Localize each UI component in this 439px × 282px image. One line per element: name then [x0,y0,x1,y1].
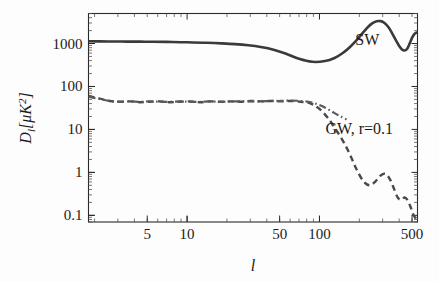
y-axis-title: Dl[μK2] [16,92,37,144]
x-axis-tick-labels: 51050100500 [143,226,423,242]
y-axis-tick-labels: 10001001010.1 [53,36,83,224]
x-tick-label-100: 100 [308,226,331,242]
x-axis-title: l [251,257,256,274]
x-tick-label-10: 10 [180,226,195,242]
gw-curve-label: GW, r=0.1 [326,120,394,137]
x-tick-label-50: 50 [272,226,287,242]
y-tick-label-0.1: 0.1 [64,207,83,223]
y-tick-label-10: 10 [68,121,83,137]
sw-curve-label: SW [355,31,380,48]
x-tick-label-500: 500 [401,226,424,242]
cmb-power-spectrum-chart: 51050100500 10001001010.1 SWGW, r=0.1 l … [0,0,439,282]
x-tick-label-5: 5 [143,226,151,242]
curve-annotations: SWGW, r=0.1 [326,31,394,136]
y-tick-label-1: 1 [75,164,83,180]
chart-figure: 51050100500 10001001010.1 SWGW, r=0.1 l … [0,0,439,282]
y-tick-label-1000: 1000 [53,36,83,52]
y-axis-title-text: Dl[μK2] [16,92,37,144]
series-line-2 [89,96,417,219]
y-tick-label-100: 100 [60,78,83,94]
series-line-3 [89,97,347,120]
